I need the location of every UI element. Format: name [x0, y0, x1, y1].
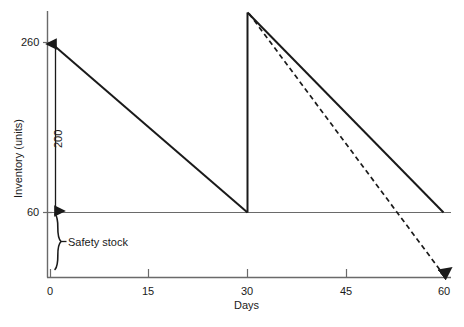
- safety-stock-brace: [55, 214, 61, 270]
- y-axis-title: Inventory (units): [12, 119, 24, 198]
- x-axis-title: Days: [234, 299, 259, 311]
- y-tick-label-60: 60: [27, 206, 39, 218]
- inventory-line-cycle-2: [248, 13, 444, 213]
- x-tick-label-60: 60: [438, 285, 450, 297]
- safety-stock-label: Safety stock: [68, 236, 128, 248]
- x-tick-label-30: 30: [241, 285, 253, 297]
- y-tick-label-260: 260: [21, 36, 39, 48]
- stockout-projection-dashed-line: [249, 14, 443, 275]
- x-tick-label-45: 45: [340, 285, 352, 297]
- x-tick-label-0: 0: [47, 285, 53, 297]
- inventory-line-cycle-1: [51, 43, 248, 213]
- order-quantity-label: 200: [52, 130, 64, 148]
- x-tick-label-15: 15: [142, 285, 154, 297]
- inventory-chart: Inventory (units) 260 60 0 15 30 45 60 D…: [0, 0, 464, 327]
- chart-plot-area: [0, 0, 464, 327]
